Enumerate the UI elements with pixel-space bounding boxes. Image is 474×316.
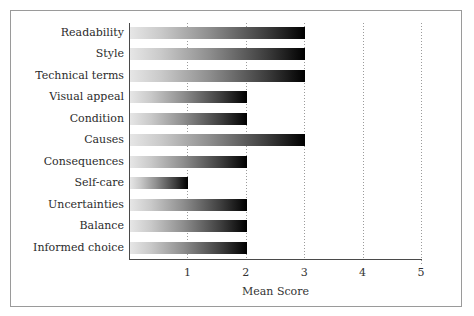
- bar: [130, 27, 305, 39]
- bar: [130, 177, 188, 189]
- x-tick-label-5: 5: [406, 266, 436, 279]
- bar-row: Technical terms: [130, 70, 305, 82]
- bar-row: Causes: [130, 134, 305, 146]
- x-tick-label-3: 3: [289, 266, 319, 279]
- category-label-balance: Balance: [80, 217, 124, 235]
- bar-row: Visual appeal: [130, 91, 247, 103]
- bar-row: Uncertainties: [130, 199, 247, 211]
- bar-row: Consequences: [130, 156, 247, 168]
- bar-row: Condition: [130, 113, 247, 125]
- cropped-caption-artifact: ·: [52, 0, 55, 4]
- category-label-uncertainties: Uncertainties: [48, 196, 124, 214]
- bar-row: Style: [130, 48, 305, 60]
- category-label-informed-choice: Informed choice: [33, 239, 124, 257]
- x-tick-label-1: 1: [172, 266, 202, 279]
- bar: [130, 134, 305, 146]
- plot-area: ReadabilityStyleTechnical termsVisual ap…: [129, 23, 431, 259]
- x-tick-label-2: 2: [231, 266, 261, 279]
- bar: [130, 91, 247, 103]
- bar: [130, 199, 247, 211]
- bar-row: Balance: [130, 220, 247, 232]
- category-label-style: Style: [96, 45, 124, 63]
- category-label-visual-appeal: Visual appeal: [49, 88, 124, 106]
- bar: [130, 156, 247, 168]
- category-label-technical-terms: Technical terms: [35, 67, 124, 85]
- bar: [130, 242, 247, 254]
- category-label-self-care: Self-care: [75, 174, 124, 192]
- bar: [130, 113, 247, 125]
- category-label-condition: Condition: [70, 110, 124, 128]
- category-label-consequences: Consequences: [44, 153, 124, 171]
- category-label-causes: Causes: [84, 131, 124, 149]
- bars-group: ReadabilityStyleTechnical termsVisual ap…: [129, 23, 431, 259]
- category-label-readability: Readability: [61, 24, 124, 42]
- x-axis-title: Mean Score: [129, 285, 422, 298]
- bar-row: Readability: [130, 27, 305, 39]
- bar-row: Self-care: [130, 177, 188, 189]
- bar-row: Informed choice: [130, 242, 247, 254]
- bar: [130, 70, 305, 82]
- bar: [130, 220, 247, 232]
- figure-frame: ReadabilityStyleTechnical termsVisual ap…: [10, 10, 462, 307]
- x-tick-label-4: 4: [348, 266, 378, 279]
- bar: [130, 48, 305, 60]
- x-axis-line: [129, 259, 422, 260]
